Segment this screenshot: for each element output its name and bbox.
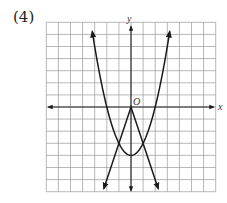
y-axis-label: y xyxy=(126,13,132,24)
origin-label: O xyxy=(133,96,140,107)
x-axis-label: x xyxy=(217,101,223,112)
coordinate-graph: y x O xyxy=(0,0,227,203)
